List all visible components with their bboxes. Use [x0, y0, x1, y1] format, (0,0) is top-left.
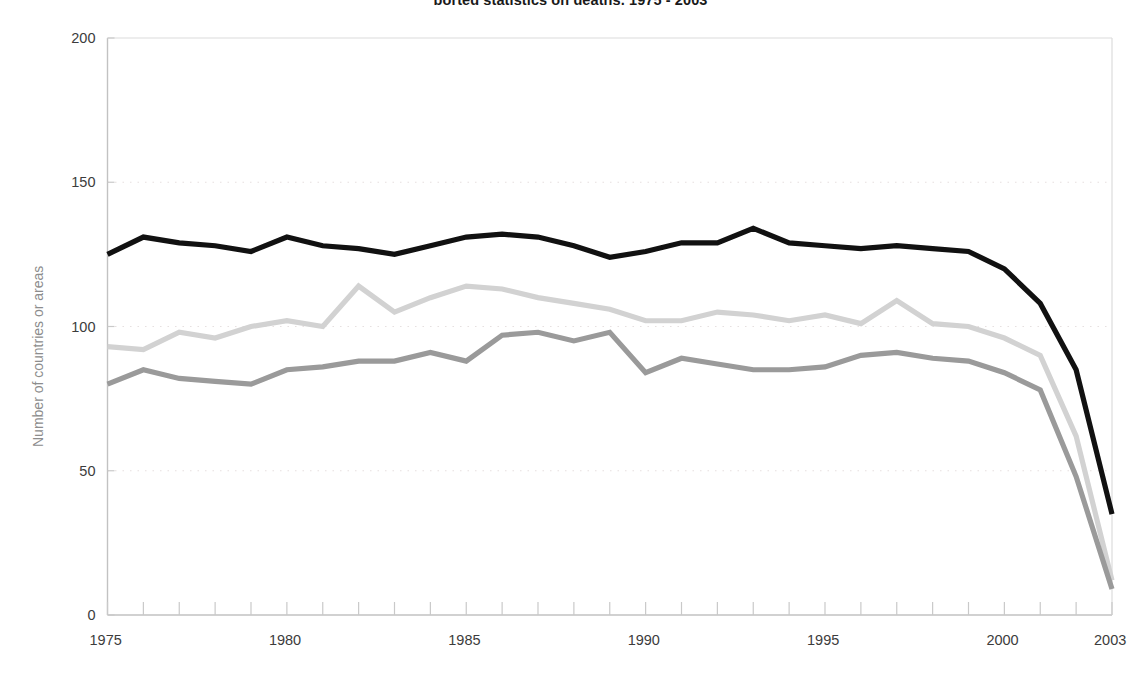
chart-container: ported statistics on deaths, 1975 - 2003… [0, 0, 1141, 683]
data-series-group [108, 228, 1113, 589]
x-axis-tickmarks [108, 602, 1113, 615]
series-line-series-medium-gray [108, 332, 1113, 589]
y-axis-tickmarks [108, 38, 115, 615]
plot-area [0, 0, 1141, 683]
